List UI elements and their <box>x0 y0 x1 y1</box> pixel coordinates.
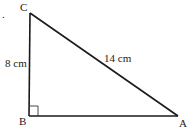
vertex-label-b: B <box>19 115 26 127</box>
right-angle-marker <box>29 106 38 116</box>
triangle-diagram: . C B A 8 cm 14 cm <box>0 0 193 134</box>
vertex-label-c: C <box>20 1 27 13</box>
vertex-label-a: A <box>179 117 187 129</box>
side-ca <box>30 13 178 116</box>
question-bullet: . <box>2 8 5 20</box>
side-label-ca: 14 cm <box>104 52 132 64</box>
side-bc <box>29 13 30 116</box>
side-label-bc: 8 cm <box>5 57 27 69</box>
